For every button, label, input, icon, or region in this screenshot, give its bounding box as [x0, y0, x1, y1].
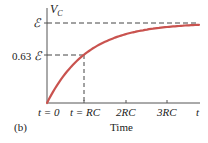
y-tick-063-emf: 0.63 ℰ	[12, 50, 41, 62]
charging-curve	[47, 25, 199, 103]
x-tick-t0: t = 0	[38, 107, 59, 118]
x-tick-2rc: 2RC	[116, 107, 136, 118]
y-axis-label: VC	[50, 3, 63, 18]
chart-canvas	[0, 0, 208, 143]
x-tick-3rc: 3RC	[157, 107, 177, 118]
x-axis-label: Time	[110, 122, 133, 133]
x-tick-t: t	[196, 107, 199, 118]
x-tick-trc: t = RC	[70, 107, 100, 118]
panel-label: (b)	[14, 122, 27, 133]
y-tick-emf: ℰ	[33, 17, 40, 29]
